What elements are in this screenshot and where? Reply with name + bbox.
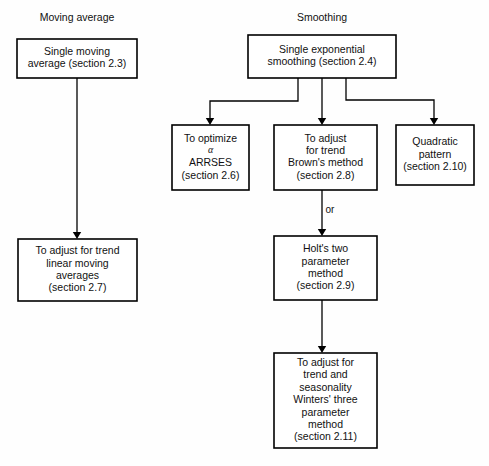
edge-holts-method-to-winters-method	[318, 300, 326, 353]
node-holts-two-parameter-method-line-1: parameter	[302, 255, 350, 267]
node-optimize-alpha-arrses-line-0: To optimize	[184, 132, 237, 144]
node-adjust-for-trend-browns-method[interactable]: To adjustfor trendBrown's method(section…	[274, 125, 377, 190]
edge-smoothing-to-quadratic-pattern-line	[346, 78, 434, 120]
edge-browns-method-to-holts-method: or	[318, 190, 335, 236]
edge-smoothing-to-browns-method	[318, 78, 326, 125]
edge-holts-method-to-winters-method-arrowhead	[318, 346, 326, 353]
edge-single-moving-average-to-linear-moving-averages	[73, 78, 81, 239]
node-adjust-for-trend-linear-moving-averages-line-3: (section 2.7)	[49, 281, 107, 293]
node-single-moving-average[interactable]: Single movingaverage (section 2.3)	[17, 39, 137, 78]
edge-smoothing-to-quadratic-pattern	[346, 78, 438, 125]
node-adjust-for-trend-browns-method-line-3: (section 2.8)	[297, 169, 355, 181]
edge-smoothing-to-browns-method-arrowhead	[318, 118, 326, 125]
heading-moving-average: Moving average	[40, 11, 115, 23]
node-holts-two-parameter-method-line-3: (section 2.9)	[297, 279, 355, 291]
edge-smoothing-to-optimize-alpha-line	[210, 78, 298, 120]
node-holts-two-parameter-method[interactable]: Holt's twoparametermethod(section 2.9)	[274, 236, 377, 300]
node-quadratic-pattern-line-2: (section 2.10)	[403, 160, 467, 172]
node-optimize-alpha-arrses-line-2: ARRSES	[189, 156, 232, 168]
edge-smoothing-to-optimize-alpha-arrowhead	[206, 118, 214, 125]
node-adjust-for-trend-browns-method-line-1: for trend	[306, 144, 345, 156]
edge-single-moving-average-to-linear-moving-averages-arrowhead	[73, 232, 81, 239]
node-optimize-alpha-arrses-line-1: α	[208, 145, 214, 156]
edge-smoothing-to-optimize-alpha	[206, 78, 298, 125]
heading-smoothing: Smoothing	[297, 11, 347, 23]
node-holts-two-parameter-method-line-0: Holt's two	[303, 242, 348, 254]
node-quadratic-pattern-line-1: pattern	[419, 148, 452, 160]
node-winters-three-parameter-method-line-3: Winters' three	[293, 393, 358, 405]
node-optimize-alpha-arrses-line-3: (section 2.6)	[182, 169, 240, 181]
node-adjust-for-trend-linear-moving-averages[interactable]: To adjust for trendlinear movingaverages…	[18, 239, 137, 301]
node-adjust-for-trend-linear-moving-averages-line-0: To adjust for trend	[35, 244, 119, 256]
node-single-moving-average-line-0: Single moving	[44, 45, 110, 57]
node-single-moving-average-line-1: average (section 2.3)	[28, 57, 127, 69]
node-adjust-for-trend-linear-moving-averages-line-1: linear moving	[46, 257, 109, 269]
node-winters-three-parameter-method-line-2: seasonality	[299, 381, 352, 393]
node-winters-three-parameter-method-line-6: (section 2.11)	[294, 430, 357, 442]
headings-layer: Moving averageSmoothing	[40, 11, 348, 23]
edge-smoothing-to-quadratic-pattern-arrowhead	[430, 118, 438, 125]
node-winters-three-parameter-method[interactable]: To adjust fortrend andseasonalityWinters…	[274, 353, 377, 448]
node-single-exponential-smoothing[interactable]: Single exponentialsmoothing (section 2.4…	[248, 35, 396, 78]
node-holts-two-parameter-method-line-2: method	[308, 267, 343, 279]
node-single-exponential-smoothing-line-0: Single exponential	[279, 43, 365, 55]
edge-browns-method-to-holts-method-label: or	[326, 204, 336, 215]
node-winters-three-parameter-method-line-1: trend and	[303, 368, 348, 380]
node-optimize-alpha-arrses[interactable]: To optimizeαARRSES(section 2.6)	[172, 125, 249, 190]
node-single-exponential-smoothing-line-1: smoothing (section 2.4)	[267, 55, 376, 67]
node-adjust-for-trend-linear-moving-averages-line-2: averages	[56, 269, 99, 281]
edges-layer: or	[73, 78, 438, 353]
flowchart-diagram: or Single movingaverage (section 2.3)Sin…	[0, 0, 489, 466]
nodes-layer: Single movingaverage (section 2.3)Single…	[17, 35, 474, 448]
node-winters-three-parameter-method-line-0: To adjust for	[297, 356, 355, 368]
node-winters-three-parameter-method-line-4: parameter	[302, 406, 350, 418]
node-adjust-for-trend-browns-method-line-0: To adjust	[304, 132, 346, 144]
node-adjust-for-trend-browns-method-line-2: Brown's method	[288, 156, 363, 168]
node-quadratic-pattern-line-0: Quadratic	[412, 135, 458, 147]
node-quadratic-pattern[interactable]: Quadraticpattern(section 2.10)	[396, 125, 474, 185]
node-winters-three-parameter-method-line-5: method	[308, 418, 343, 430]
edge-browns-method-to-holts-method-arrowhead	[318, 229, 326, 236]
